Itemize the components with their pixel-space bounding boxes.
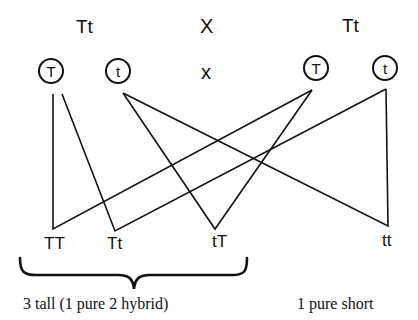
gamete-combination-lines	[0, 0, 418, 320]
offspring-tt: tt	[382, 232, 391, 249]
gamete-left-recessive: t	[105, 58, 131, 84]
monohybrid-cross-diagram: Tt X Tt T t x T t TT Tt tT tt 3 tall (1 …	[0, 0, 418, 320]
gamete-allele: t	[116, 63, 120, 80]
gamete-allele: T	[311, 60, 320, 77]
brace	[20, 258, 247, 289]
offspring-tT: tT	[212, 233, 227, 250]
caption-tall: 3 tall (1 pure 2 hybrid)	[23, 296, 168, 312]
offspring-Tt: Tt	[107, 235, 122, 252]
parent-left-genotype: Tt	[76, 17, 93, 36]
cross-symbol-gametes: x	[201, 62, 211, 82]
parent-right-genotype: Tt	[342, 16, 359, 35]
caption-short: 1 pure short	[297, 296, 373, 312]
offspring-TT: TT	[44, 235, 65, 252]
cross-symbol-parents: X	[200, 16, 213, 36]
gamete-allele: t	[383, 60, 387, 77]
gamete-right-dominant: T	[303, 55, 329, 81]
line-tT	[123, 90, 312, 229]
line-Tt	[62, 89, 386, 231]
gamete-right-recessive: t	[372, 55, 398, 81]
gamete-allele: T	[46, 63, 55, 80]
gamete-left-dominant: T	[38, 58, 64, 84]
line-TT	[53, 90, 312, 229]
